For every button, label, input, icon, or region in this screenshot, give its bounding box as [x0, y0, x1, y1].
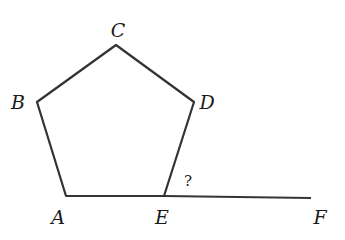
extension-line-ef: [164, 196, 311, 198]
point-label-f: F: [313, 208, 326, 227]
vertex-label-b: B: [11, 93, 25, 112]
angle-question-mark: ?: [184, 174, 192, 189]
pentagon-abcde: [37, 45, 194, 196]
vertex-label-a: A: [51, 208, 65, 227]
pentagon-diagram: [0, 0, 345, 240]
vertex-label-c: C: [111, 21, 126, 40]
vertex-label-e: E: [155, 208, 169, 227]
vertex-label-d: D: [199, 93, 214, 112]
